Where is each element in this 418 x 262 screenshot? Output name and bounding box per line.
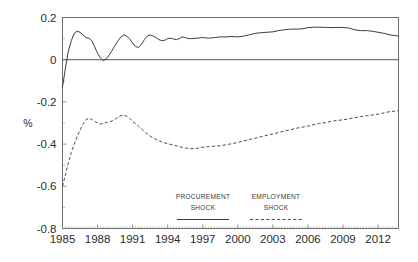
y-tick-label: -0.2 <box>37 96 57 108</box>
y-tick-label: 0.2 <box>41 12 57 24</box>
x-tick-label: 1997 <box>190 233 216 245</box>
y-tick-label: -0.4 <box>37 138 57 150</box>
legend-label-line1: PROCUREMENT <box>176 193 230 200</box>
series-line-solid <box>63 27 399 87</box>
chart-legend: PROCUREMENTSHOCKEMPLOYMENTSHOCK <box>176 193 302 220</box>
x-tick-label: 2006 <box>295 233 321 245</box>
chart-container: 0.20-0.2-0.4-0.6-0.819851988199119941997… <box>0 0 418 262</box>
legend-label-line2: SHOCK <box>264 204 289 211</box>
x-tick-label: 1988 <box>85 233 111 245</box>
series-layer <box>63 27 399 186</box>
y-axis-title: % <box>23 117 32 129</box>
legend-label-line1: EMPLOYMENT <box>252 193 301 200</box>
x-tick-label: 2000 <box>225 233 251 245</box>
x-tick-label: 1991 <box>120 233 146 245</box>
x-tick-label: 1985 <box>50 233 76 245</box>
series-line-dashed <box>63 111 399 187</box>
y-tick-label: 0 <box>50 54 56 66</box>
x-tick-label: 2012 <box>365 233 391 245</box>
y-tick-label: -0.6 <box>37 180 57 192</box>
x-tick-label: 2003 <box>260 233 286 245</box>
x-tick-label: 2009 <box>330 233 356 245</box>
legend-label-line2: SHOCK <box>191 204 216 211</box>
line-chart: 0.20-0.2-0.4-0.6-0.819851988199119941997… <box>0 0 418 262</box>
x-tick-label: 1994 <box>155 233 181 245</box>
